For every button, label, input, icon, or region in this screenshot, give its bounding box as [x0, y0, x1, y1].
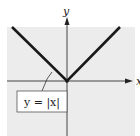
y-axis-label: y: [62, 5, 70, 18]
graph-figure: x y y = |x|: [0, 0, 140, 136]
y-axis-arrow-icon: [65, 17, 70, 25]
vertex-point: [65, 79, 69, 83]
function-label: y = |x|: [23, 96, 60, 110]
x-axis-label: x: [136, 75, 140, 88]
